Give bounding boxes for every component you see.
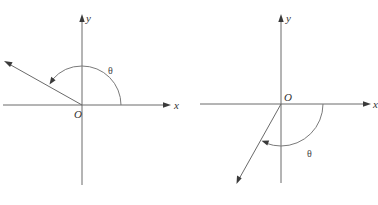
panel-b: y x O θ: [200, 12, 378, 184]
x-axis-arrow-icon: [363, 101, 371, 106]
y-axis-arrow-icon: [79, 14, 84, 22]
angle-diagrams: y x O θ y x O θ: [0, 0, 378, 205]
y-axis-arrow-icon: [278, 14, 283, 22]
origin-label: O: [74, 108, 82, 120]
panel-a: y x O θ: [3, 12, 179, 185]
angle-arc-arrow-icon: [50, 77, 56, 85]
x-axis-label: x: [173, 99, 179, 111]
terminal-ray: [239, 104, 281, 179]
x-axis-arrow-icon: [163, 102, 171, 107]
terminal-ray: [9, 64, 82, 105]
y-axis-label: y: [85, 12, 91, 24]
angle-label: θ: [307, 148, 312, 159]
angle-label: θ: [108, 65, 113, 76]
y-axis-label: y: [285, 12, 291, 24]
angle-arc: [266, 104, 323, 146]
terminal-ray-arrow-icon: [237, 176, 242, 184]
x-axis-label: x: [372, 98, 378, 110]
angle-arc-arrow-icon: [262, 141, 270, 146]
origin-label: O: [284, 91, 292, 103]
terminal-ray-arrow-icon: [4, 61, 13, 67]
